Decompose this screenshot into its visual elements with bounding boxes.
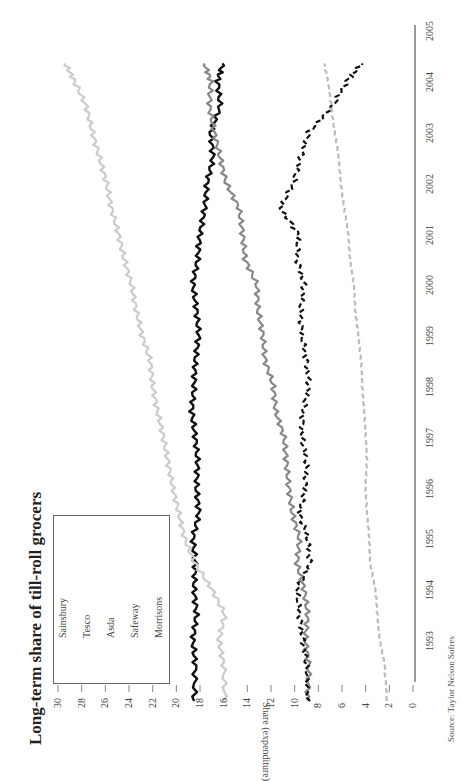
year-label: 1994 xyxy=(424,580,435,600)
legend-label-sainsbury: Sainsbury xyxy=(57,598,68,638)
y-tick-label: 20 xyxy=(170,698,181,708)
legend-label-asda: Asda xyxy=(105,617,116,638)
year-label: 1995 xyxy=(424,529,435,549)
y-tick-label: 16 xyxy=(218,698,229,708)
series-line-safeway xyxy=(280,63,363,701)
year-label: 1998 xyxy=(424,377,435,397)
y-tick-label: 28 xyxy=(76,698,87,708)
y-axis-label-text: Share (expenditure) xyxy=(261,702,272,781)
y-tick-label: 18 xyxy=(194,698,205,708)
y-tick-label: 6 xyxy=(336,703,347,708)
legend-label-morrisons: Morrisons xyxy=(153,597,164,638)
year-label: 2001 xyxy=(424,225,435,245)
y-tick-label: 12 xyxy=(265,698,276,708)
year-label: 1993 xyxy=(424,631,435,651)
y-tick-label: 24 xyxy=(123,698,134,708)
chart-title: Long-term share of till-roll grocers xyxy=(26,492,46,745)
source-note: Source: Taylor Nelson Sofres xyxy=(446,636,456,742)
y-tick-label: 30 xyxy=(52,698,63,708)
legend: SainsburyTescoAsdaSafewayMorrisons xyxy=(53,515,170,684)
y-tick-label: 26 xyxy=(99,698,110,708)
y-axis-label: Share (expenditure) xyxy=(261,702,272,781)
year-label: 2003 xyxy=(424,123,435,143)
series-line-morrisons xyxy=(324,63,387,701)
year-label: 2005 xyxy=(424,21,435,41)
y-tick-label: 8 xyxy=(312,703,323,708)
y-tick-label: 2 xyxy=(383,703,394,708)
y-tick-label: 4 xyxy=(360,703,371,708)
y-tick-label: 14 xyxy=(241,698,252,708)
year-label: 1997 xyxy=(424,428,435,448)
year-label: 1996 xyxy=(424,479,435,499)
legend-label-tesco: Tesco xyxy=(81,615,92,638)
year-label: 2002 xyxy=(424,174,435,194)
legend-label-safeway: Safeway xyxy=(129,604,140,638)
y-tick-label: 22 xyxy=(147,698,158,708)
year-label: 2004 xyxy=(424,72,435,92)
year-label: 2000 xyxy=(424,275,435,295)
y-tick-marks xyxy=(58,685,413,692)
y-tick-label: 10 xyxy=(289,698,300,708)
year-label: 1999 xyxy=(424,326,435,346)
y-tick-label: 0 xyxy=(407,703,418,708)
